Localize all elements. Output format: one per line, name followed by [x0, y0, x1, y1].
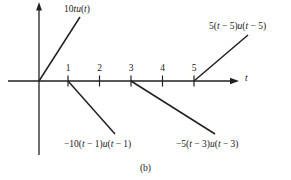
x-tick-label-2: 2	[93, 64, 107, 74]
annotation-ramp-up-origin-p5: )	[87, 4, 90, 14]
data-line-ramp-up-t5	[194, 35, 248, 81]
x-tick-label-4: 4	[156, 64, 170, 74]
annotation-ramp-down-t1-p0: −10(	[64, 139, 82, 149]
annotation-ramp-up-t5-p2: − 5)	[220, 21, 238, 31]
data-line-ramp-down-t1	[68, 81, 115, 134]
x-axis	[8, 78, 239, 84]
annotation-ramp-down-t3-p0: −5(	[176, 139, 189, 149]
annotation-ramp-down-t3-p6: − 3)	[221, 139, 239, 149]
annotation-ramp-up-origin: 10tu(t)	[64, 5, 90, 15]
annotation-ramp-up-t5: 5(t − 5)u(t − 5)	[209, 22, 266, 32]
annotation-ramp-up-t5-p0: 5(	[209, 21, 217, 31]
annotation-ramp-down-t3: −5(t − 3)u(t − 3)	[176, 140, 239, 150]
annotation-ramp-up-origin-p0: 10	[64, 4, 74, 14]
x-tick-label-1: 1	[61, 64, 75, 74]
figure-caption: (b)	[0, 164, 291, 174]
figure-container: 1 2 3 4 5 t 10tu(t) 5(t − 5)u(t − 5) −10…	[0, 0, 291, 180]
annotation-ramp-down-t1-p2: − 1)	[85, 139, 103, 149]
annotation-ramp-down-t3-p2: − 3)	[192, 139, 210, 149]
x-tick-label-3: 3	[124, 64, 138, 74]
data-line-ramp-down-t3	[131, 81, 215, 134]
annotation-ramp-down-t1: −10(t − 1)u(t − 1)	[64, 140, 131, 150]
x-tick-label-5: 5	[187, 64, 201, 74]
annotation-ramp-down-t1-p6: − 1)	[113, 139, 131, 149]
x-axis-label-t: t	[245, 74, 248, 84]
annotation-ramp-up-t5-p6: − 5)	[248, 21, 266, 31]
